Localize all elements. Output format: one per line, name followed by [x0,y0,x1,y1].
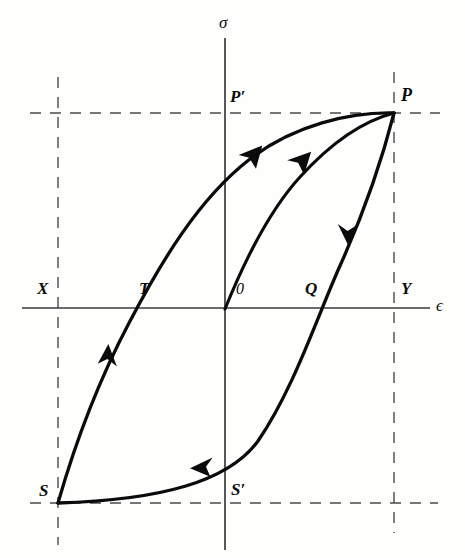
hysteresis-plot-canvas [0,0,465,558]
arrow-up-right-on-O-P-branch [285,145,313,175]
hysteresis-figure: σ ϵ P′ P X T 0 Q Y S S′ [0,0,465,558]
point-label-T: T [139,280,149,297]
arrow-left-on-Q-S-branch [190,458,214,478]
point-label-P-prime: P′ [230,88,245,105]
point-label-S-prime: S′ [231,481,245,498]
point-label-X: X [37,280,48,297]
epsilon-axis-label: ϵ [436,297,443,314]
arrow-up-right-on-T-P-branch [236,139,264,169]
point-label-S: S [39,482,48,499]
origin-label: 0 [236,281,244,297]
point-label-P: P [401,86,412,104]
sigma-axis-label: σ [219,14,227,31]
point-label-Q: Q [305,280,317,297]
point-label-Y: Y [401,280,411,297]
